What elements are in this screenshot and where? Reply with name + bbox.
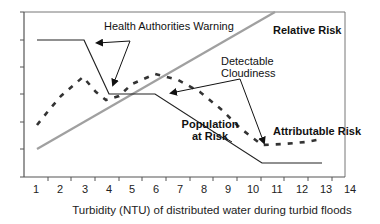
x-tick-label: 4 <box>106 183 112 195</box>
x-tick-label: 10 <box>247 183 259 195</box>
relative-risk-line <box>37 12 275 149</box>
x-tick-label: 14 <box>344 183 356 195</box>
annotation-attributable-risk: Attributable Risk <box>273 125 362 137</box>
annotation-health-warning: Health Authorities Warning <box>104 20 234 32</box>
x-tick-label: 2 <box>57 183 63 195</box>
x-tick-label: 8 <box>201 183 207 195</box>
x-tick-label: 13 <box>320 183 332 195</box>
x-tick-label: 5 <box>129 183 135 195</box>
x-tick-label: 12 <box>296 183 308 195</box>
x-tick-label: 3 <box>82 183 88 195</box>
annotation-relative-risk: Relative Risk <box>273 24 342 36</box>
turbidity-risk-chart: 1 2 3 4 5 6 7 8 9 10 11 12 13 14 Turbidi… <box>0 0 380 224</box>
x-tick-labels: 1 2 3 4 5 6 7 8 9 10 11 12 13 14 <box>33 183 356 195</box>
x-tick-label: 7 <box>177 183 183 195</box>
annotation-detectable-line1: Detectable <box>221 55 274 67</box>
annotation-population-line2: at Risk <box>192 130 229 142</box>
x-axis-label: Turbidity (NTU) of distributed water dur… <box>72 204 352 216</box>
x-tick-label: 11 <box>271 183 282 195</box>
x-tick-label: 1 <box>33 183 39 195</box>
x-ticks <box>48 177 332 181</box>
x-tick-label: 9 <box>225 183 231 195</box>
annotation-detectable-line2: Cloudiness <box>221 67 276 79</box>
annotation-population-line1: Population <box>182 118 239 130</box>
x-tick-label: 6 <box>153 183 159 195</box>
plot-frame <box>24 12 345 177</box>
